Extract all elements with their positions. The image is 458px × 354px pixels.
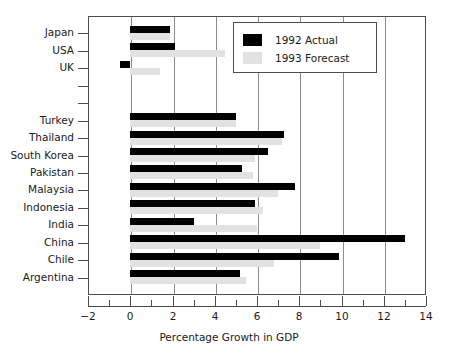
legend: 1992 Actual 1993 Forecast bbox=[233, 22, 377, 73]
x-axis-tick-label: −2 bbox=[73, 310, 103, 322]
bar-actual bbox=[130, 183, 295, 190]
x-axis-tick-label: 6 bbox=[242, 310, 272, 322]
bar-forecast bbox=[130, 138, 282, 145]
bar-actual bbox=[130, 131, 284, 138]
x-axis-tick bbox=[130, 296, 131, 306]
bar-actual bbox=[130, 253, 339, 260]
y-axis-label-turkey: Turkey bbox=[40, 115, 74, 126]
y-axis-label-pakistan: Pakistan bbox=[30, 167, 74, 178]
y-axis-label-thailand: Thailand bbox=[29, 132, 74, 143]
x-axis-minor-tick bbox=[405, 300, 406, 306]
y-axis-label-china: China bbox=[44, 237, 74, 248]
bar-forecast bbox=[130, 225, 257, 232]
x-axis-tick-label: 12 bbox=[369, 310, 399, 322]
x-axis-minor-tick bbox=[278, 300, 279, 306]
x-axis-minor-tick bbox=[320, 300, 321, 306]
y-axis-tick bbox=[78, 260, 88, 261]
y-axis-label-india: India bbox=[48, 219, 74, 230]
bar-actual bbox=[130, 43, 174, 50]
bar-forecast bbox=[130, 33, 170, 40]
x-axis-tick bbox=[384, 296, 385, 306]
y-axis-tick bbox=[78, 190, 88, 191]
y-axis-tick bbox=[78, 86, 88, 87]
bar-forecast bbox=[130, 172, 253, 179]
x-axis-tick-label: 10 bbox=[327, 310, 357, 322]
x-axis-tick bbox=[426, 296, 427, 306]
x-axis-minor-tick bbox=[109, 300, 110, 306]
bar-actual bbox=[120, 61, 131, 68]
y-axis-tick bbox=[78, 173, 88, 174]
bar-actual bbox=[130, 165, 242, 172]
y-axis-tick bbox=[78, 243, 88, 244]
y-axis-label-south-korea: South Korea bbox=[10, 150, 74, 161]
legend-label-actual: 1992 Actual bbox=[275, 33, 338, 47]
y-axis-tick bbox=[78, 278, 88, 279]
y-axis-tick bbox=[78, 156, 88, 157]
x-axis-tick-label: 0 bbox=[115, 310, 145, 322]
x-axis-tick-label: 4 bbox=[200, 310, 230, 322]
x-axis-tick bbox=[299, 296, 300, 306]
bar-actual bbox=[130, 218, 193, 225]
y-axis-tick bbox=[78, 33, 88, 34]
legend-swatch-forecast-icon bbox=[243, 52, 262, 64]
gridline bbox=[385, 17, 386, 294]
x-axis-tick bbox=[88, 296, 89, 306]
bar-actual bbox=[130, 26, 170, 33]
y-axis-label-usa: USA bbox=[52, 45, 74, 56]
bar-actual bbox=[130, 200, 255, 207]
y-axis-label-indonesia: Indonesia bbox=[23, 202, 74, 213]
x-axis-tick-label: 14 bbox=[411, 310, 441, 322]
x-axis-tick bbox=[215, 296, 216, 306]
x-axis-minor-tick bbox=[151, 300, 152, 306]
x-axis-tick bbox=[342, 296, 343, 306]
y-axis-tick bbox=[78, 121, 88, 122]
bar-forecast bbox=[130, 68, 160, 75]
y-axis-label-malaysia: Malaysia bbox=[28, 184, 74, 195]
y-axis-tick bbox=[78, 138, 88, 139]
y-axis-tick bbox=[78, 103, 88, 104]
x-axis-tick bbox=[173, 296, 174, 306]
legend-swatch-actual-icon bbox=[243, 34, 262, 46]
y-axis-tick bbox=[78, 68, 88, 69]
x-axis-title: Percentage Growth in GDP bbox=[0, 331, 458, 343]
gdp-growth-bar-chart: JapanUSAUKTurkeyThailandSouth KoreaPakis… bbox=[0, 0, 458, 354]
y-axis-label-uk: UK bbox=[59, 62, 74, 73]
x-axis-minor-tick bbox=[236, 300, 237, 306]
bar-forecast bbox=[130, 50, 225, 57]
bar-forecast bbox=[130, 207, 263, 214]
x-axis-minor-tick bbox=[194, 300, 195, 306]
x-axis-minor-tick bbox=[363, 300, 364, 306]
bar-forecast bbox=[130, 120, 236, 127]
bar-forecast bbox=[130, 242, 320, 249]
y-axis-label-chile: Chile bbox=[48, 254, 74, 265]
x-axis-tick-label: 8 bbox=[284, 310, 314, 322]
bar-forecast bbox=[130, 190, 278, 197]
y-axis-label-argentina: Argentina bbox=[23, 272, 74, 283]
bar-actual bbox=[130, 270, 240, 277]
bar-actual bbox=[130, 113, 236, 120]
x-axis-tick bbox=[257, 296, 258, 306]
bar-forecast bbox=[130, 260, 274, 267]
y-axis-tick bbox=[78, 208, 88, 209]
bar-forecast bbox=[130, 277, 246, 284]
legend-label-forecast: 1993 Forecast bbox=[275, 51, 350, 65]
bar-actual bbox=[130, 148, 267, 155]
bar-actual bbox=[130, 235, 405, 242]
y-axis-label-japan: Japan bbox=[45, 27, 74, 38]
x-axis-line bbox=[88, 306, 426, 307]
y-axis-tick bbox=[78, 225, 88, 226]
x-axis-tick-label: 2 bbox=[158, 310, 188, 322]
bar-forecast bbox=[130, 155, 255, 162]
y-axis-tick bbox=[78, 51, 88, 52]
